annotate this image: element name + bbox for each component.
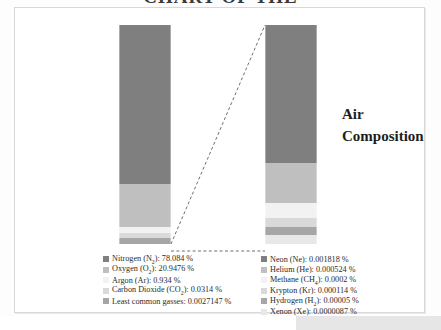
bar-segment — [119, 25, 171, 184]
bar-segment — [265, 25, 317, 163]
page-title-cropped: CHART OF THE — [0, 0, 441, 6]
legend-swatch — [103, 277, 109, 283]
stacked-bar-main — [119, 25, 171, 244]
legend-swatch — [103, 288, 109, 294]
legend-swatch — [261, 309, 267, 315]
bar-segment — [265, 227, 317, 235]
legend-main-gases: Nitrogen (N2): 78.084 %Oxygen (O2): 20.9… — [103, 254, 231, 307]
bar-segment — [265, 235, 317, 243]
scanned-page: CHART OF THE Air Composition Nitrogen (N… — [0, 0, 441, 330]
legend-swatch — [261, 256, 267, 262]
page-corner-shadow — [296, 316, 441, 330]
legend-swatch — [103, 267, 109, 273]
legend-trace-gases: Neon (Ne): 0.001818 %Helium (He): 0.0005… — [261, 254, 359, 317]
legend-swatch — [103, 298, 109, 304]
figure-frame: Air Composition Nitrogen (N2): 78.084 %O… — [14, 7, 425, 313]
leader-line-upper — [171, 25, 265, 244]
legend-swatch — [261, 298, 267, 304]
bar-segment — [119, 184, 171, 227]
bar-segment — [265, 218, 317, 227]
air-heading-line2: Composition — [342, 126, 438, 148]
legend-swatch — [261, 277, 267, 283]
legend-swatch — [261, 267, 267, 273]
bar-segment — [119, 238, 171, 244]
air-composition-heading: Air Composition — [342, 104, 438, 148]
air-heading-line1: Air — [342, 104, 438, 126]
legend-swatch — [261, 288, 267, 294]
legend-swatch — [103, 256, 109, 262]
stacked-bar-trace-gases — [265, 25, 317, 244]
legend-label: Least common gasses: 0.0027147 % — [112, 295, 231, 308]
bar-segment — [265, 203, 317, 218]
bar-segment — [265, 163, 317, 203]
legend-row: Least common gasses: 0.0027147 % — [103, 296, 231, 307]
